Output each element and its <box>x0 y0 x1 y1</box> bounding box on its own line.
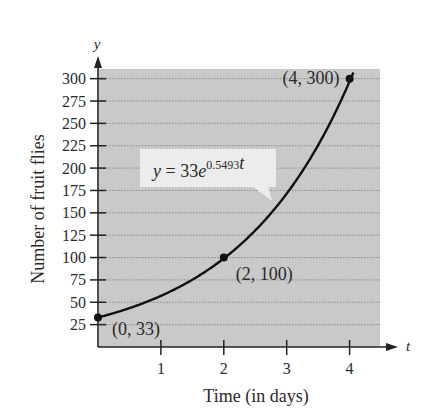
x-tick-label: 2 <box>220 360 228 377</box>
plot-background <box>99 69 380 347</box>
x-axis-arrow-icon <box>386 343 398 351</box>
y-tick-label: 125 <box>62 227 86 244</box>
x-axis-label: Time (in days) <box>203 386 308 407</box>
y-tick-label: 200 <box>62 160 86 177</box>
y-axis-arrow-icon <box>94 56 102 68</box>
x-axis-variable: t <box>406 338 411 354</box>
y-tick-label: 25 <box>70 316 86 333</box>
y-tick-label: 100 <box>62 249 86 266</box>
y-tick-label: 175 <box>62 182 86 199</box>
x-tick-label: 3 <box>283 360 291 377</box>
point-label: (4, 300) <box>283 68 340 89</box>
point-label: (0, 33) <box>112 319 160 340</box>
y-tick-label: 300 <box>62 70 86 87</box>
data-point <box>220 254 228 262</box>
y-tick-label: 225 <box>62 137 86 154</box>
data-point <box>94 313 102 321</box>
y-tick-label: 150 <box>62 204 86 221</box>
chart: 255075100125150175200225250275300 1234 y… <box>0 0 436 417</box>
y-axis-variable: y <box>92 36 101 52</box>
y-tick-label: 250 <box>62 115 86 132</box>
data-point <box>346 75 354 83</box>
y-tick-label: 275 <box>62 93 86 110</box>
point-label: (2, 100) <box>236 264 293 285</box>
y-axis-label: Number of fruit flies <box>28 134 48 283</box>
x-tick-label: 1 <box>157 360 165 377</box>
y-tick-label: 75 <box>70 271 86 288</box>
y-tick-label: 50 <box>70 294 86 311</box>
x-tick-label: 4 <box>346 360 354 377</box>
